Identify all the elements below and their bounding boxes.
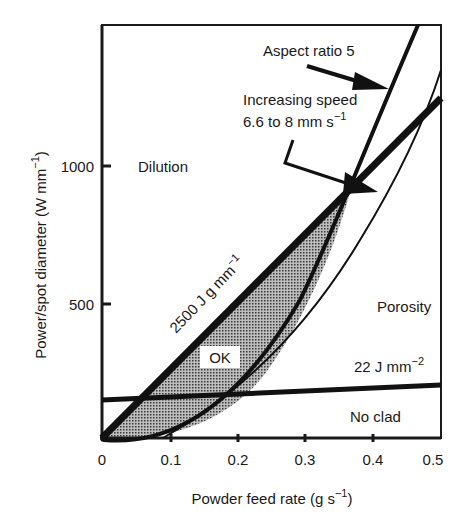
x-axis-title: Powder feed rate (g s−1) [192,487,353,507]
origin-marker [100,434,108,442]
speed-arrow-shaft [285,140,352,185]
y-tick-500: 500 [69,296,94,313]
y-tick-1000: 1000 [61,158,94,175]
process-map-chart: OK Dilution Porosity No clad 22 J mm−2 2… [0,0,465,527]
speed-label-line2: 6.6 to 8 mm s−1 [243,110,346,130]
aspect-ratio-label: Aspect ratio 5 [263,42,355,59]
x-tick-0: 0 [98,451,106,468]
speed-label-line1: Increasing speed [243,91,357,108]
no-clad-label: No clad [350,408,401,425]
x-tick-0.1: 0.1 [161,451,182,468]
x-tick-labels: 0 0.1 0.2 0.3 0.4 0.5 [98,451,444,468]
y-tick-labels: 1000 500 [61,158,94,313]
aspect-arrow-head [352,72,389,90]
x-tick-0.5: 0.5 [423,451,444,468]
dilution-label: Dilution [138,158,188,175]
x-tick-0.2: 0.2 [228,451,249,468]
x-tick-0.3: 0.3 [295,451,316,468]
y-axis-title: Power/spot diameter (W mm−1) [29,151,49,359]
porosity-label: Porosity [377,298,432,315]
ok-label: OK [209,349,231,366]
x-tick-0.4: 0.4 [363,451,384,468]
fluence-label: 22 J mm−2 [354,355,424,375]
